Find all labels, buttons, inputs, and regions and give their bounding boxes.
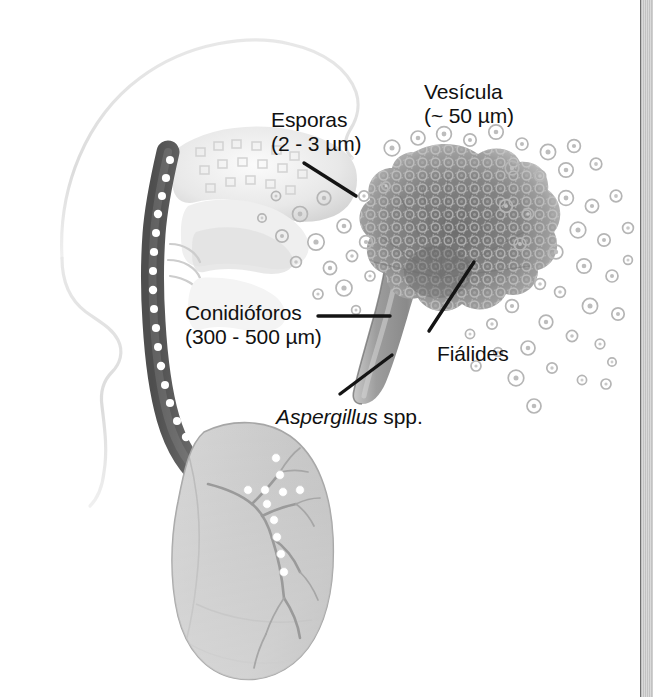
label-esporas: Esporas (2 - 3 µm)	[271, 108, 361, 155]
page-edge-fill	[641, 0, 652, 697]
label-aspergillus-spp: Aspergillus spp.	[276, 405, 423, 429]
diagram-canvas	[0, 0, 655, 697]
page-edge-band	[640, 0, 653, 697]
label-fialides-line1: Fiálides	[437, 342, 509, 366]
label-conidioforos-line1: Conidióforos	[185, 301, 322, 325]
label-conidioforos: Conidióforos (300 - 500 µm)	[185, 301, 322, 348]
label-vesicula: Vesícula (~ 50 µm)	[424, 80, 514, 127]
label-aspergillus-genus: Aspergillus	[276, 405, 378, 428]
label-vesicula-line2: (~ 50 µm)	[424, 104, 514, 128]
label-conidioforos-line2: (300 - 500 µm)	[185, 325, 322, 349]
label-aspergillus-qualifier: spp.	[378, 405, 423, 428]
label-esporas-line2: (2 - 3 µm)	[271, 132, 361, 156]
label-vesicula-line1: Vesícula	[424, 80, 514, 104]
lung	[170, 420, 350, 690]
label-esporas-line1: Esporas	[271, 108, 361, 132]
label-fialides: Fiálides	[437, 342, 509, 366]
figure-root: Esporas (2 - 3 µm) Vesícula (~ 50 µm) Co…	[0, 0, 655, 697]
page-edge-right-line	[652, 0, 653, 697]
